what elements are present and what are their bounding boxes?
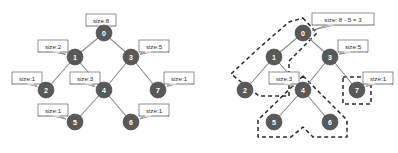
- panel-tree-with-sizes: size:8size:2size:5size:1size:3size:1size…: [0, 0, 199, 153]
- node-label: 7: [156, 87, 160, 94]
- callout-label: size:5: [345, 43, 362, 50]
- figure-canvas: size:8size:2size:5size:1size:3size:1size…: [0, 0, 398, 153]
- tree-node-4[interactable]: 4: [96, 82, 112, 98]
- tree-node-4[interactable]: 4: [295, 82, 311, 98]
- size-callout-node-5: size:1: [38, 104, 68, 119]
- tree-node-2[interactable]: 2: [38, 82, 54, 98]
- node-label: 7: [355, 87, 359, 94]
- node-label: 2: [44, 87, 48, 94]
- tree-node-6[interactable]: 6: [322, 114, 338, 130]
- node-label: 4: [301, 87, 305, 94]
- size-callout-node-7: size:1: [164, 72, 194, 86]
- tree-node-7[interactable]: 7: [150, 82, 166, 98]
- node-label: 0: [102, 30, 106, 37]
- tree-node-5[interactable]: 5: [266, 114, 282, 130]
- tree-node-5[interactable]: 5: [67, 114, 83, 130]
- callout-label: size:1: [19, 75, 36, 82]
- node-label: 1: [73, 54, 77, 61]
- node-label: 3: [129, 54, 133, 61]
- size-callout-node-1: size:2: [38, 40, 68, 55]
- tree-node-0[interactable]: 0: [295, 25, 311, 41]
- tree-node-2[interactable]: 2: [237, 82, 253, 98]
- tree-diagram-left: size:8size:2size:5size:1size:3size:1size…: [0, 0, 199, 153]
- node-label: 5: [73, 119, 77, 126]
- callout-label: size:2: [45, 43, 62, 50]
- size-callout-node-4: size:3: [269, 72, 299, 87]
- node-label: 2: [243, 87, 247, 94]
- size-callout-node-0: size: 8 - 5 = 3: [312, 13, 374, 30]
- node-label: 3: [328, 54, 332, 61]
- node-label: 6: [328, 119, 332, 126]
- size-callout-node-3: size:5: [139, 40, 169, 54]
- node-label: 4: [102, 87, 106, 94]
- size-callout-node-7: size:1: [363, 72, 393, 86]
- node-label: 6: [129, 119, 133, 126]
- node-label: 5: [272, 119, 276, 126]
- callout-label: size:1: [146, 107, 163, 114]
- size-callout-node-0: size:8: [86, 14, 116, 26]
- tree-node-1[interactable]: 1: [266, 49, 282, 65]
- tree-diagram-right: size: 8 - 5 = 3size:5size:3size:10132475…: [199, 0, 398, 153]
- tree-node-3[interactable]: 3: [322, 49, 338, 65]
- node-label: 1: [272, 54, 276, 61]
- callout-label: size:1: [45, 107, 62, 114]
- tree-node-0[interactable]: 0: [96, 25, 112, 41]
- size-callout-node-4: size:3: [70, 72, 100, 87]
- callout-tail: [312, 25, 334, 30]
- tree-node-1[interactable]: 1: [67, 49, 83, 65]
- callout-label: size:3: [276, 75, 293, 82]
- callout-label: size:3: [77, 75, 94, 82]
- tree-node-6[interactable]: 6: [123, 114, 139, 130]
- callout-label: size:8: [93, 17, 110, 24]
- node-label: 0: [301, 30, 305, 37]
- panel-tree-with-subtraction: size: 8 - 5 = 3size:5size:3size:10132475…: [199, 0, 398, 153]
- size-callout-node-6: size:1: [139, 104, 169, 119]
- size-callout-node-2: size:1: [12, 72, 42, 87]
- callout-label: size:1: [370, 75, 387, 82]
- callout-label: size:1: [171, 75, 188, 82]
- tree-node-3[interactable]: 3: [123, 49, 139, 65]
- callout-label: size: 8 - 5 = 3: [324, 16, 362, 23]
- tree-node-7[interactable]: 7: [349, 82, 365, 98]
- callout-label: size:5: [146, 43, 163, 50]
- size-callout-node-3: size:5: [338, 40, 368, 54]
